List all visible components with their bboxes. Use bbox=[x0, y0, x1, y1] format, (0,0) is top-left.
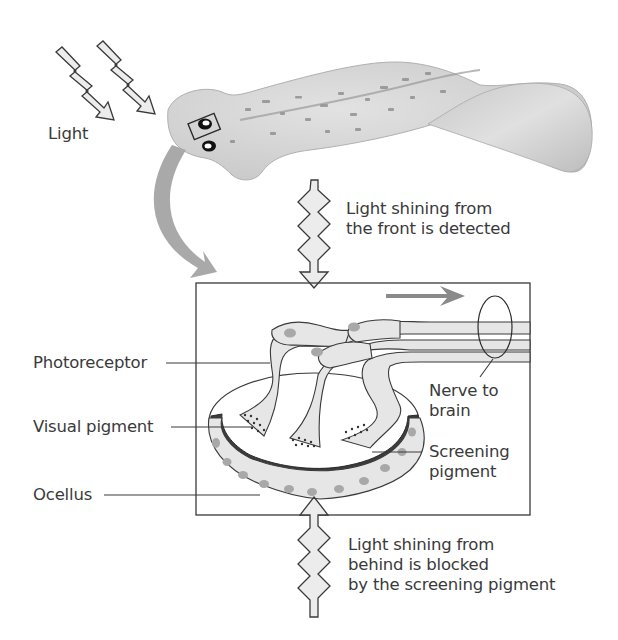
behind-light-arrow-icon bbox=[298, 497, 330, 617]
front-light-caption: Light shining from the front is detected bbox=[346, 199, 510, 239]
ocellus-label: Ocellus bbox=[33, 485, 92, 505]
nerve-to-brain-label: Nerve to brain bbox=[429, 381, 498, 421]
front-light-arrow-icon bbox=[298, 180, 330, 288]
planarian-body bbox=[168, 62, 592, 180]
curved-arrow-icon bbox=[154, 145, 217, 278]
screening-pigment-label: Screening pigment bbox=[429, 442, 509, 482]
light-label: Light bbox=[48, 124, 88, 144]
photoreceptor-label: Photoreceptor bbox=[33, 353, 147, 373]
behind-light-caption: Light shining from behind is blocked by … bbox=[348, 535, 555, 595]
light-rays-icon bbox=[56, 41, 155, 120]
visual-pigment-label: Visual pigment bbox=[33, 417, 153, 437]
signal-arrow-icon bbox=[386, 286, 465, 306]
